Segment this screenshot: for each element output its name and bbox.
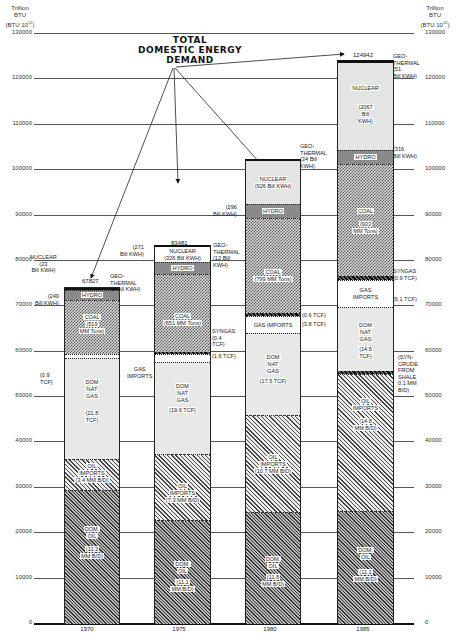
label-nuclear-value: (926 Bill KWH) xyxy=(254,183,293,189)
label-natgas-value: (21.8 xyxy=(85,410,100,416)
label-domoil: DOM. xyxy=(84,526,101,532)
annotation-1985-hydro: (316 Bill KWH) xyxy=(393,146,417,159)
label-natgas: NAT xyxy=(267,361,280,367)
label-natgas-value: (14.5 xyxy=(358,346,373,352)
x-label-1985: 1985 xyxy=(343,626,383,632)
segment-dom-nat-gas: DOM NAT GAS (19.6 TCF) xyxy=(155,362,210,454)
label-domoil: DOM. xyxy=(174,561,191,567)
label-oilimp-value: (14.8 xyxy=(358,418,373,424)
label-coal: COAL xyxy=(174,313,191,319)
label-oilimp: IMPORTS xyxy=(352,405,379,411)
label-natgas: NAT xyxy=(86,386,99,392)
label-natgas: DOM xyxy=(175,383,190,389)
segment-hydro: HYDRO xyxy=(338,150,393,164)
annotation-1970-hydro: (249 Bill KWH) xyxy=(35,293,59,306)
label-natgas: DOM xyxy=(358,322,373,328)
label-natgas-unit: TCF) xyxy=(358,353,373,359)
segment-dom-oil: DOM. OIL (11.1 MM B/D) xyxy=(338,511,393,624)
segment-oil-imports: OIL IMPORTS (7.3 MM B/D) xyxy=(155,454,210,520)
annotation-1985-gas-imports: (6.1 TCF) xyxy=(393,296,417,303)
segment-coal: COAL (651 MM Tons) xyxy=(155,274,210,352)
segment-gas-imports xyxy=(155,354,210,362)
label-coal-value: (651 MM Tons) xyxy=(163,320,202,326)
annotation-1985-syngas: SYNGAS (0.9 TCF) xyxy=(393,268,417,281)
segment-hydro: HYDRO xyxy=(246,204,300,218)
annotation-1980-hydro: (296 Bill KWH) xyxy=(213,204,237,217)
label-coal: COAL xyxy=(357,208,374,214)
label-natgas: GAS xyxy=(85,393,99,399)
label-oilimp-value: (7.3 MM B/D) xyxy=(165,497,200,503)
segment-nuclear: NUCLEAR (326 Bill KWH) xyxy=(155,247,210,262)
label-nuclear-value: (326 Bill KWH) xyxy=(163,255,202,261)
label-domoil: OIL xyxy=(267,563,278,569)
segment-coal: COAL (519 MM Tons) xyxy=(65,300,119,354)
label-gas-imports: GAS xyxy=(359,287,373,293)
label-domoil-unit: MM B/D) xyxy=(170,586,194,592)
label-domoil-unit: MM B/D) xyxy=(261,581,285,587)
annotation-1975-gas-imports: (1.6 TCF) xyxy=(212,353,236,360)
label-domoil: OIL xyxy=(177,568,188,574)
label-coal-unit: MM Tons) xyxy=(352,228,378,234)
label-oilimp: OIL xyxy=(267,454,278,460)
label-natgas: NAT xyxy=(176,390,189,396)
label-nuclear: NUCLEAR xyxy=(168,248,197,254)
label-domoil-value: (11.1 xyxy=(175,579,189,585)
label-hydro: HYDRO xyxy=(354,154,376,160)
segment-dom-oil: DOM. OIL (11.3 MM B/D) xyxy=(65,490,119,624)
x-label-1975: 1975 xyxy=(159,626,199,632)
label-hydro: HYDRO xyxy=(171,265,193,271)
label-domoil: OIL xyxy=(86,533,97,539)
label-hydro: HYDRO xyxy=(81,292,103,298)
label-domoil-unit: MM B/D) xyxy=(80,553,104,559)
label-oilimp: IMPORTS xyxy=(259,461,286,467)
total-1970: 67827 xyxy=(82,278,99,284)
label-domoil-value: (11.3 xyxy=(85,546,99,552)
segment-dom-oil: DOM. OIL (11.1 MM B/D) xyxy=(155,520,210,624)
segment-gas-imports: GAS IMPORTS xyxy=(246,316,300,333)
label-nuclear-unit: KWH) xyxy=(357,118,374,124)
annotation-1975-syngas: SYNGAS (0.4 TCF) xyxy=(212,328,235,348)
bar-1985: NUCLEAR (2067 Bill KWH) HYDRO COAL (933 … xyxy=(337,60,394,624)
label-natgas-unit: TCF) xyxy=(85,417,100,423)
annotation-1985-syncrude: (SYN- CRUDE FROM SHALE 0.1 MM B/D) xyxy=(398,354,418,393)
label-oilimp: OIL xyxy=(360,398,371,404)
segment-coal: COAL (799 MM Tons) xyxy=(246,218,300,313)
label-nuclear: NUCLEAR xyxy=(351,85,380,91)
annotation-1980-gas-imports: (3.8 TCF) xyxy=(302,321,326,328)
label-gas-imports: IMPORTS xyxy=(352,294,379,300)
segment-nuclear: NUCLEAR (926 Bill KWH) xyxy=(246,161,300,204)
label-natgas-value: (19.6 TCF) xyxy=(168,407,197,413)
segment-hydro: HYDRO xyxy=(155,262,210,274)
annotation-1975-geothermal: GEO- THERMAL (12 Bill KWH) xyxy=(213,242,240,268)
label-natgas: GAS xyxy=(359,336,373,342)
label-oilimp-value: (3.4 MM B/D) xyxy=(74,477,109,483)
label-domoil: DOM. xyxy=(357,547,374,553)
label-coal-value: (799 MM Tons) xyxy=(253,276,292,282)
x-label-1980: 1980 xyxy=(250,626,290,632)
label-oilimp: OIL xyxy=(86,463,97,469)
segment-oil-imports: OIL IMPORTS (10.7 MM B/D) xyxy=(246,415,300,512)
bar-1980: NUCLEAR (926 Bill KWH) HYDRO COAL (799 M… xyxy=(245,159,301,624)
segment-gas-imports: GAS IMPORTS xyxy=(338,280,393,307)
label-hydro: HYDRO xyxy=(262,208,284,214)
annotation-1985-geothermal: GEO- THERMAL (51 Bill KWH) xyxy=(393,53,420,79)
label-natgas: NAT xyxy=(359,329,372,335)
label-oilimp-value: (10.7 MM B/D) xyxy=(254,468,292,474)
label-natgas: DOM xyxy=(265,354,280,360)
label-nuclear: NUCLEAR xyxy=(259,176,288,182)
label-domoil-value: (11.8 xyxy=(266,574,280,580)
annotation-1970-gas-imports: GAS IMPORTS xyxy=(127,366,152,379)
annotation-1980-geothermal: GEO- THERMAL (34 Bill KWH) xyxy=(300,143,327,169)
label-oilimp: IMPORTS xyxy=(78,470,105,476)
segment-dom-oil: DOM. OIL (11.8 MM B/D) xyxy=(246,512,300,624)
total-1985: 124942 xyxy=(353,52,373,58)
label-coal-value: (519 xyxy=(85,321,98,327)
segment-oil-imports: OIL IMPORTS (14.8 MM B/D) xyxy=(338,374,393,511)
label-coal: COAL xyxy=(264,269,281,275)
segment-oil-imports: OIL IMPORTS (3.4 MM B/D) xyxy=(65,459,119,490)
label-domoil-unit: MM B/D) xyxy=(353,576,377,582)
label-oilimp: IMPORTS xyxy=(169,490,196,496)
label-natgas: DOM xyxy=(84,379,99,385)
label-coal-unit: MM Tons) xyxy=(79,328,105,334)
label-natgas: GAS xyxy=(176,397,190,403)
